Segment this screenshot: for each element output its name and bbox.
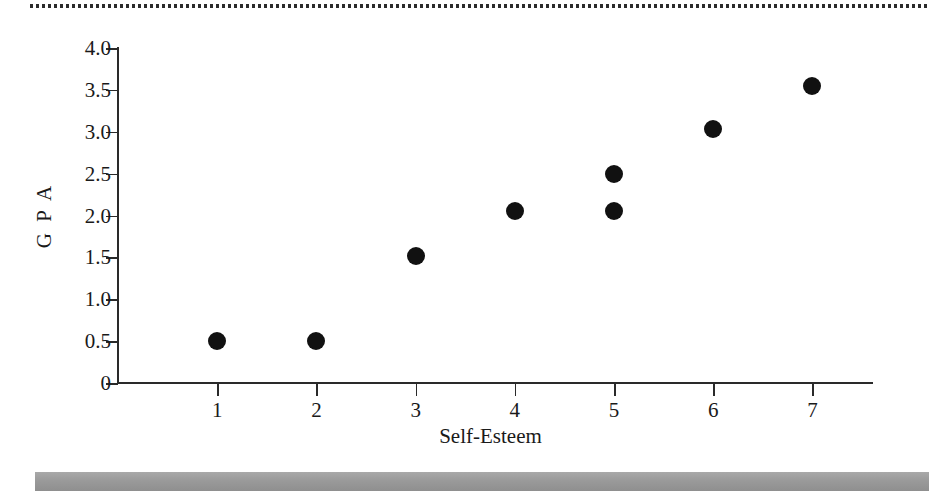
scatter-plot-figure: G P A Self-Esteem 00.51.01.52.02.53.03.5… bbox=[0, 0, 929, 491]
data-point bbox=[704, 120, 722, 138]
y-axis-title: G P A bbox=[18, 150, 72, 280]
x-tick-mark bbox=[614, 384, 616, 396]
y-tick-label: 1.5 bbox=[85, 247, 111, 268]
x-tick-mark bbox=[515, 384, 517, 396]
y-axis-title-text: G P A bbox=[33, 182, 58, 248]
y-tick-label: 3.0 bbox=[85, 121, 111, 142]
y-tick-label: 4.0 bbox=[85, 38, 111, 59]
data-point bbox=[307, 332, 325, 350]
data-point bbox=[506, 202, 524, 220]
data-point bbox=[407, 247, 425, 265]
dotted-rule-top bbox=[30, 4, 929, 8]
x-tick-label: 4 bbox=[510, 400, 521, 421]
x-axis-title-text: Self-Esteem bbox=[439, 424, 542, 449]
grey-band-bottom bbox=[35, 472, 929, 491]
x-axis-title: Self-Esteem bbox=[0, 424, 929, 449]
x-tick-mark bbox=[812, 384, 814, 396]
x-tick-label: 7 bbox=[807, 400, 818, 421]
data-point bbox=[605, 165, 623, 183]
x-tick-label: 1 bbox=[212, 400, 223, 421]
x-tick-label: 6 bbox=[708, 400, 719, 421]
y-tick-label: 0 bbox=[101, 373, 112, 394]
plot-area: 00.51.01.52.02.53.03.54.0 1234567 bbox=[118, 48, 872, 383]
y-tick-label: 2.5 bbox=[85, 163, 111, 184]
x-tick-mark bbox=[713, 384, 715, 396]
x-tick-label: 3 bbox=[410, 400, 421, 421]
data-point bbox=[605, 202, 623, 220]
data-point bbox=[803, 77, 821, 95]
y-tick-label: 3.5 bbox=[85, 79, 111, 100]
y-tick-label: 1.0 bbox=[85, 289, 111, 310]
x-tick-mark bbox=[316, 384, 318, 396]
y-tick-label: 0.5 bbox=[85, 331, 111, 352]
x-tick-mark bbox=[217, 384, 219, 396]
x-tick-mark bbox=[416, 384, 418, 396]
x-tick-label: 5 bbox=[609, 400, 620, 421]
x-tick-label: 2 bbox=[311, 400, 322, 421]
y-tick-label: 2.0 bbox=[85, 205, 111, 226]
data-point bbox=[208, 332, 226, 350]
